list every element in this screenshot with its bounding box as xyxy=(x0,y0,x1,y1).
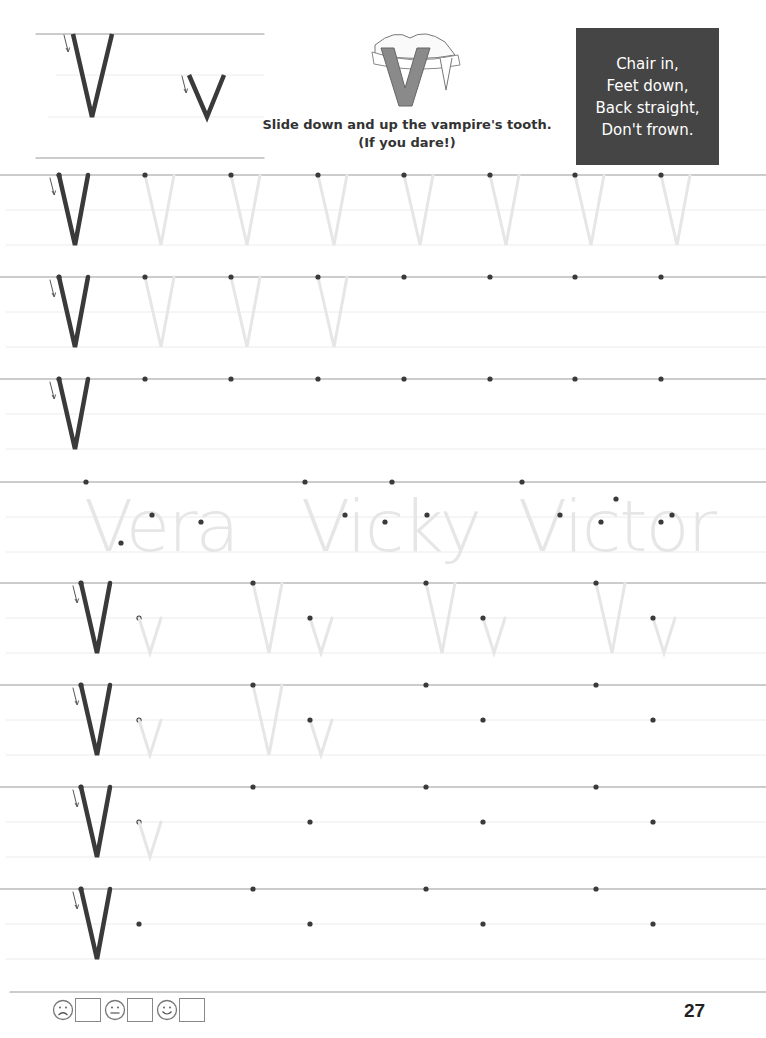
start-dot xyxy=(487,376,492,381)
start-dot xyxy=(83,479,88,484)
traceable-lowercase-v xyxy=(310,618,332,653)
rhyme-line: Don't frown. xyxy=(576,119,719,141)
start-dot xyxy=(250,580,255,585)
start-dot xyxy=(650,819,655,824)
start-dot xyxy=(401,376,406,381)
start-dot xyxy=(382,519,387,524)
rating-checkbox-happy[interactable] xyxy=(179,998,205,1022)
start-dot xyxy=(572,172,577,177)
start-dot xyxy=(650,921,655,926)
rating-checkbox-sad[interactable] xyxy=(75,998,101,1022)
start-dot xyxy=(669,512,674,517)
start-dot xyxy=(142,172,147,177)
start-dot xyxy=(487,274,492,279)
start-dot xyxy=(650,717,655,722)
start-dot xyxy=(56,172,61,177)
traceable-lowercase-v xyxy=(310,720,332,755)
vampire-fang-icon xyxy=(440,58,452,90)
rating-happy[interactable] xyxy=(156,998,205,1022)
start-dot xyxy=(307,921,312,926)
start-dot xyxy=(307,717,312,722)
start-dot xyxy=(658,172,663,177)
start-dot xyxy=(118,540,123,545)
start-dot xyxy=(480,717,485,722)
instruction-line-1: Slide down and up the vampire's tooth. xyxy=(262,116,552,134)
start-dot xyxy=(228,274,233,279)
start-dot xyxy=(142,274,147,279)
posture-rhyme-box: Chair in, Feet down, Back straight, Don'… xyxy=(576,28,719,165)
start-dot xyxy=(389,479,394,484)
happy-face-icon xyxy=(156,999,178,1021)
start-dot xyxy=(424,512,429,517)
start-dot xyxy=(480,921,485,926)
traceable-lowercase-v xyxy=(139,618,161,653)
start-dot xyxy=(401,274,406,279)
start-dot xyxy=(315,274,320,279)
start-dot xyxy=(342,512,347,517)
start-dot xyxy=(519,479,524,484)
instruction-text: Slide down and up the vampire's tooth. (… xyxy=(262,116,552,152)
traceable-lowercase-v xyxy=(139,822,161,857)
start-dot xyxy=(487,172,492,177)
start-dot xyxy=(593,886,598,891)
start-dot xyxy=(480,615,485,620)
start-dot xyxy=(78,886,83,891)
worksheet-page: VeraVickyVictor Slide down and up the va… xyxy=(0,0,766,1038)
start-dot xyxy=(423,886,428,891)
start-dot xyxy=(401,172,406,177)
start-dot xyxy=(423,682,428,687)
traceable-lowercase-v xyxy=(653,618,675,653)
start-dot xyxy=(315,376,320,381)
instruction-line-2: (If you dare!) xyxy=(262,134,552,152)
start-dot xyxy=(136,921,141,926)
start-dot xyxy=(228,376,233,381)
start-dot xyxy=(307,819,312,824)
start-dot xyxy=(56,376,61,381)
start-dot xyxy=(650,615,655,620)
start-dot xyxy=(658,376,663,381)
traceable-name: Victor xyxy=(518,484,718,568)
start-dot xyxy=(250,784,255,789)
start-dot xyxy=(572,376,577,381)
start-dot xyxy=(250,682,255,687)
start-dot xyxy=(593,580,598,585)
rhyme-line: Back straight, xyxy=(576,97,719,119)
start-dot xyxy=(228,172,233,177)
start-dot xyxy=(78,580,83,585)
rhyme-line: Feet down, xyxy=(576,75,719,97)
start-dot xyxy=(423,580,428,585)
start-dot xyxy=(149,512,154,517)
page-number: 27 xyxy=(684,1000,705,1022)
start-dot xyxy=(572,274,577,279)
start-dot xyxy=(593,682,598,687)
start-dot xyxy=(78,784,83,789)
start-dot xyxy=(658,274,663,279)
sad-face-icon xyxy=(52,999,74,1021)
start-dot xyxy=(56,274,61,279)
start-dot xyxy=(250,886,255,891)
start-dot xyxy=(593,784,598,789)
start-dot xyxy=(557,512,562,517)
start-dot xyxy=(423,784,428,789)
rating-checkbox-neutral[interactable] xyxy=(127,998,153,1022)
start-dot xyxy=(302,479,307,484)
traceable-name: Vera xyxy=(84,484,238,568)
start-dot xyxy=(78,682,83,687)
traceable-name: Vicky xyxy=(301,484,480,568)
start-dot xyxy=(198,519,203,524)
start-dot xyxy=(142,376,147,381)
start-dot xyxy=(613,496,618,501)
rating-neutral[interactable] xyxy=(104,998,153,1022)
rating-sad[interactable] xyxy=(52,998,101,1022)
neutral-face-icon xyxy=(104,999,126,1021)
model-lowercase-v xyxy=(189,75,224,117)
traceable-lowercase-v xyxy=(483,618,505,653)
start-dot xyxy=(315,172,320,177)
start-dot xyxy=(598,519,603,524)
start-dot xyxy=(658,519,663,524)
start-dot xyxy=(480,819,485,824)
traceable-lowercase-v xyxy=(139,720,161,755)
rhyme-line: Chair in, xyxy=(576,53,719,75)
start-dot xyxy=(307,615,312,620)
